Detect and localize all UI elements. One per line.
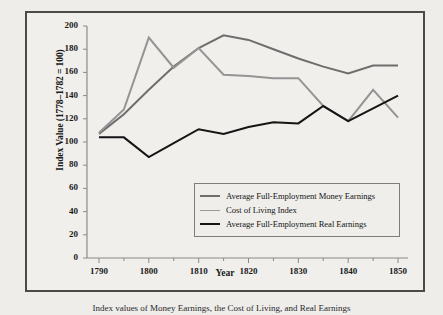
y-axis-tick-label: 20 bbox=[52, 229, 78, 239]
chart-frame: Index Value (1778–1782 = 100) Year 20018… bbox=[25, 11, 425, 292]
legend-label: Average Full-Employment Money Earnings bbox=[226, 191, 375, 201]
y-axis-tick-label: 140 bbox=[52, 90, 78, 100]
legend-line-swatch-icon bbox=[200, 210, 220, 211]
legend-item-real-earnings: Average Full-Employment Real Earnings bbox=[200, 217, 393, 231]
figure-caption: Index values of Money Earnings, the Cost… bbox=[0, 303, 443, 315]
y-axis-tick-label: 200 bbox=[52, 20, 78, 30]
series-line bbox=[99, 96, 398, 157]
y-axis-tick-label: 160 bbox=[52, 66, 78, 76]
x-axis-tick-label: 1830 bbox=[278, 266, 318, 276]
y-axis-tick-label: 120 bbox=[52, 113, 78, 123]
legend-line-swatch-icon bbox=[200, 195, 220, 197]
x-axis-tick-label: 1840 bbox=[328, 266, 368, 276]
y-axis-tick-label: 100 bbox=[52, 136, 78, 146]
chart-page: Index Value (1778–1782 = 100) Year 20018… bbox=[0, 0, 443, 315]
x-axis-tick-label: 1820 bbox=[229, 266, 269, 276]
legend-item-cost-of-living: Cost of Living Index bbox=[200, 203, 393, 217]
x-axis-tick-label: 1810 bbox=[179, 266, 219, 276]
y-axis-tick-label: 180 bbox=[52, 43, 78, 53]
x-axis-tick-label: 1850 bbox=[378, 266, 418, 276]
legend-label: Cost of Living Index bbox=[226, 205, 297, 215]
y-axis-tick-label: 80 bbox=[52, 159, 78, 169]
chart-legend: Average Full-Employment Money Earnings C… bbox=[194, 183, 400, 237]
x-axis-tick-label: 1800 bbox=[129, 266, 169, 276]
line-chart-plot bbox=[27, 13, 423, 290]
legend-label: Average Full-Employment Real Earnings bbox=[226, 219, 366, 229]
x-axis-tick-label: 1790 bbox=[79, 266, 119, 276]
y-axis-tick-label: 0 bbox=[52, 252, 78, 262]
legend-item-money-earnings: Average Full-Employment Money Earnings bbox=[200, 189, 393, 203]
legend-line-swatch-icon bbox=[200, 223, 220, 225]
y-axis-tick-label: 40 bbox=[52, 206, 78, 216]
y-axis-tick-label: 60 bbox=[52, 182, 78, 192]
